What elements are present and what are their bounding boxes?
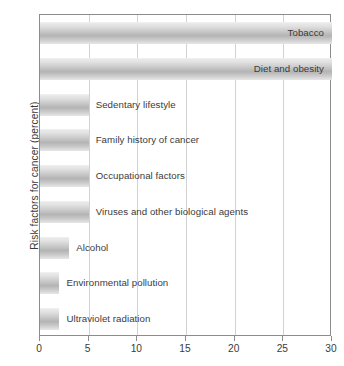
x-tick-label-30: 30 — [325, 343, 336, 354]
x-axis: 051015202530 — [39, 336, 331, 366]
bar-label: Family history of cancer — [96, 129, 200, 150]
bar[interactable] — [40, 165, 89, 187]
bar-row: Occupational factors — [40, 158, 330, 194]
bar-row: Viruses and other biological agents — [40, 194, 330, 230]
bar-label: Sedentary lifestyle — [96, 94, 176, 115]
bar-label: Environmental pollution — [66, 272, 168, 293]
x-tick-label-25: 25 — [277, 343, 288, 354]
x-tick-label-0: 0 — [36, 343, 42, 354]
bar[interactable] — [40, 129, 89, 151]
bar[interactable] — [40, 201, 89, 223]
plot-area: TobaccoDiet and obesitySedentary lifesty… — [39, 14, 331, 336]
bar-label: Diet and obesity — [254, 58, 324, 79]
bar[interactable] — [40, 308, 59, 330]
bar[interactable] — [40, 237, 69, 259]
x-tick-15 — [185, 336, 186, 341]
x-tick-label-20: 20 — [228, 343, 239, 354]
x-tick-label-15: 15 — [179, 343, 190, 354]
bar-series: TobaccoDiet and obesitySedentary lifesty… — [40, 15, 330, 335]
bar[interactable] — [40, 94, 89, 116]
bar-row: Environmental pollution — [40, 265, 330, 301]
x-tick-5 — [88, 336, 89, 341]
x-tick-30 — [331, 336, 332, 341]
bar-row: Tobacco — [40, 15, 330, 51]
bar[interactable] — [40, 272, 59, 294]
bar-label: Ultraviolet radiation — [66, 308, 150, 329]
y-axis-title: Risk factors for cancer (percent) — [29, 46, 40, 306]
x-tick-25 — [282, 336, 283, 341]
bar-row: Diet and obesity — [40, 51, 330, 87]
bar-label: Viruses and other biological agents — [96, 201, 248, 222]
bar-chart: Risk factors for cancer (percent) Tobacc… — [0, 0, 344, 366]
bar-label: Occupational factors — [96, 165, 185, 186]
x-tick-label-10: 10 — [131, 343, 142, 354]
bar-row: Family history of cancer — [40, 122, 330, 158]
bar-row: Ultraviolet radiation — [40, 301, 330, 337]
bar-label: Tobacco — [288, 22, 324, 43]
bar-label: Alcohol — [76, 237, 108, 258]
bar-row: Sedentary lifestyle — [40, 87, 330, 123]
x-tick-label-5: 5 — [85, 343, 91, 354]
x-tick-20 — [234, 336, 235, 341]
bar-row: Alcohol — [40, 230, 330, 266]
x-tick-10 — [136, 336, 137, 341]
x-tick-0 — [39, 336, 40, 341]
